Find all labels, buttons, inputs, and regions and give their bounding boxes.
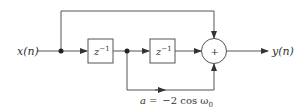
junction-node-1: [59, 49, 64, 54]
diagram-svg: x(n) y(n) z−1 z−1 + a=−2 cos ω0: [0, 0, 299, 111]
adder-plus: +: [211, 46, 219, 57]
output-label: y(n): [271, 45, 294, 58]
coefficient-label: a=−2 cos ω0: [140, 95, 213, 109]
block-diagram: x(n) y(n) z−1 z−1 + a=−2 cos ω0: [0, 0, 299, 111]
input-label: x(n): [17, 45, 39, 58]
junction-node-2: [125, 49, 130, 54]
top-path: [61, 11, 214, 51]
